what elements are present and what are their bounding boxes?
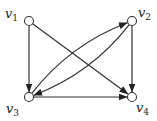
edge-v1-to-v4: [33, 24, 128, 94]
node-label-v3: v3: [6, 101, 19, 118]
node-v1: [25, 17, 34, 26]
node-v3: [25, 93, 34, 102]
node-label-v2: v2: [138, 5, 151, 22]
node-label-v4: v4: [136, 100, 149, 117]
graph-svg: v1v2v3v4: [0, 0, 157, 121]
edges-layer: [29, 23, 132, 97]
node-label-v1: v1: [5, 6, 18, 23]
graph-diagram: v1v2v3v4: [0, 0, 157, 121]
node-v2: [128, 17, 137, 26]
